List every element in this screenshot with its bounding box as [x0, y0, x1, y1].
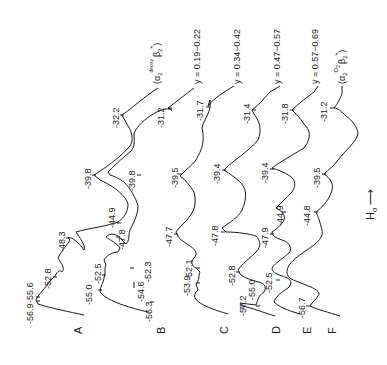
peak-label: -39.5	[312, 167, 322, 188]
trace-label-e: y = 0.57−0.69	[310, 29, 320, 84]
trace-letter-e: E	[301, 327, 313, 334]
peak-label: -31.4	[242, 103, 252, 124]
peak-label: -52.5	[264, 272, 274, 293]
peak-label: -55.6	[25, 282, 35, 303]
trace-label-c: y = 0.34−0.42	[232, 29, 242, 84]
trace-label-a: (α2deoxyβ2*)	[148, 43, 163, 84]
svg-text:Ho⟶: Ho⟶	[364, 189, 379, 220]
peak-label: -47.9	[260, 227, 270, 248]
peak-label: -44.9	[107, 207, 117, 228]
peak-label: -31.7	[195, 100, 205, 121]
peak-label: -52.8	[227, 265, 237, 286]
peak-label: -55.0	[247, 279, 257, 300]
peak-label: -39.8	[127, 170, 137, 191]
peak-label: -44.9	[275, 205, 285, 226]
peak-label: -52.5	[93, 263, 103, 284]
peak-label: -52.3	[143, 261, 153, 282]
trace-label-d: y = 0.47−0.57	[272, 29, 282, 84]
peak-label: -32.2	[111, 107, 121, 128]
peak-label: -56.7	[297, 297, 307, 318]
peak-label: -56.3	[144, 301, 154, 322]
svg-text:(α2deoxyβ2*): (α2deoxyβ2*)	[148, 43, 163, 84]
peak-label: -39.8	[83, 168, 93, 189]
peak-label: -31.8	[280, 103, 290, 124]
trace-label-f: (α2O2β2*)	[333, 50, 348, 84]
trace-letter-d: D	[270, 326, 282, 334]
trace-label-b: y = 0.19−0.22	[192, 29, 202, 84]
peak-label: -31.2	[319, 101, 329, 122]
peak-label: -55.0	[84, 284, 94, 305]
peak-label: -31.2	[156, 107, 166, 128]
peak-label: -47.7	[164, 226, 174, 247]
peak-label: -52.8	[43, 268, 53, 289]
peak-label: -52.1	[184, 259, 194, 280]
peak-label: -39.4	[260, 162, 270, 183]
peak-label: -39.4	[212, 163, 222, 184]
peak-label: -47.8	[117, 229, 127, 250]
svg-text:(α2O2β2*): (α2O2β2*)	[333, 50, 348, 84]
peak-label: -56.9	[25, 303, 35, 324]
axis-label-h0: Ho⟶	[364, 189, 379, 220]
peak-label: -47.8	[210, 225, 220, 246]
trace-letter-b: B	[155, 327, 167, 334]
peak-label: -44.8	[302, 205, 312, 226]
peak-label: -39.5	[170, 167, 180, 188]
peak-label: -54.6	[136, 281, 146, 302]
trace-letter-f: F	[326, 327, 338, 334]
trace-e: -52.5 -47.9 -44.9 -39.4 -31.8 E y = 0.57…	[260, 29, 320, 334]
spectra-figure: -56.9 -55.6 -52.8 -48.3 -44.9 -39.8 -32.…	[0, 0, 387, 365]
trace-letter-a: A	[72, 326, 84, 334]
trace-c: -53.9 -52.1 -47.7 -39.5 -31.7 C y = 0.34…	[164, 29, 242, 334]
trace-letter-c: C	[218, 326, 230, 334]
trace-f: -56.7 -44.8 -39.5 -31.2 F (α2O2β2*)	[287, 50, 358, 334]
peak-label: -48.3	[57, 231, 67, 252]
